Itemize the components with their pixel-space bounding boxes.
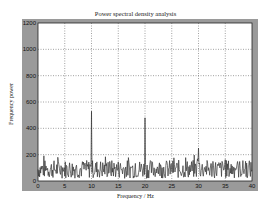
svg-text:30: 30	[195, 183, 202, 189]
svg-text:15: 15	[115, 183, 122, 189]
svg-text:600: 600	[26, 99, 37, 105]
svg-text:200: 200	[26, 152, 37, 158]
svg-text:0: 0	[36, 183, 40, 189]
svg-text:1200: 1200	[23, 20, 37, 26]
svg-text:1000: 1000	[23, 46, 37, 52]
svg-text:400: 400	[26, 125, 37, 131]
svg-text:5: 5	[63, 183, 67, 189]
plot-area: 0510152025303540020040060080010001200	[0, 0, 271, 210]
svg-text:20: 20	[142, 183, 149, 189]
plot-frame	[38, 23, 252, 181]
svg-text:800: 800	[26, 73, 37, 79]
svg-text:40: 40	[249, 183, 256, 189]
svg-text:25: 25	[168, 183, 175, 189]
svg-text:10: 10	[88, 183, 95, 189]
svg-text:35: 35	[222, 183, 229, 189]
